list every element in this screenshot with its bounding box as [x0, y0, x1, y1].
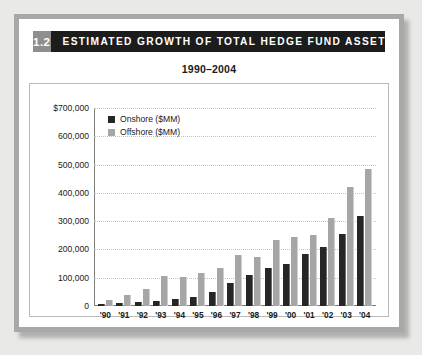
- legend-swatch-icon: [108, 129, 115, 136]
- bar-offshore[interactable]: [106, 300, 113, 307]
- y-axis-tick-label: $700,000: [53, 103, 89, 113]
- bar-group: '90: [96, 108, 115, 306]
- y-axis-tick-label: 0: [84, 301, 89, 311]
- bar-group: '04: [355, 108, 374, 306]
- x-axis-tick-label: '92: [137, 310, 148, 320]
- bar-onshore[interactable]: [153, 301, 160, 306]
- bar-offshore[interactable]: [217, 268, 224, 306]
- bar-offshore[interactable]: [180, 277, 187, 306]
- x-axis-tick-label: '96: [211, 310, 222, 320]
- exhibit-frame: 1.2 ESTIMATED GROWTH OF TOTAL HEDGE FUND…: [14, 14, 404, 332]
- x-axis-tick-label: '03: [341, 310, 352, 320]
- legend-item[interactable]: Onshore ($MM): [108, 114, 180, 124]
- bar-group: '00: [281, 108, 300, 306]
- bar-onshore[interactable]: [190, 297, 197, 306]
- y-axis-tick-label: 100,000: [58, 273, 89, 283]
- bar-onshore[interactable]: [339, 234, 346, 306]
- bar-onshore[interactable]: [172, 299, 179, 306]
- page-title: ESTIMATED GROWTH OF TOTAL HEDGE FUND ASS…: [51, 31, 394, 52]
- y-axis-tick-label: 600,000: [58, 131, 89, 141]
- legend-label: Offshore ($MM): [120, 127, 180, 137]
- bar-onshore[interactable]: [320, 247, 327, 306]
- bar-offshore[interactable]: [310, 235, 317, 306]
- bar-offshore[interactable]: [254, 257, 261, 307]
- x-axis-tick-label: '93: [155, 310, 166, 320]
- x-axis-tick-label: '99: [266, 310, 277, 320]
- bar-group: '98: [244, 108, 263, 306]
- bar-onshore[interactable]: [98, 304, 105, 306]
- x-axis-tick-label: '90: [100, 310, 111, 320]
- bar-offshore[interactable]: [143, 289, 150, 306]
- x-axis-tick-label: '95: [192, 310, 203, 320]
- bar-onshore[interactable]: [227, 283, 234, 306]
- bar-onshore[interactable]: [116, 303, 123, 306]
- bar-onshore[interactable]: [302, 254, 309, 306]
- bar-group: '99: [263, 108, 282, 306]
- bar-onshore[interactable]: [135, 302, 142, 306]
- x-axis-tick-label: '00: [285, 310, 296, 320]
- bar-onshore[interactable]: [209, 292, 216, 306]
- exhibit-title-band: 1.2 ESTIMATED GROWTH OF TOTAL HEDGE FUND…: [33, 31, 385, 52]
- y-axis-tick-label: 400,000: [58, 188, 89, 198]
- bar-group: '92: [133, 108, 152, 306]
- chart-plot-frame: 0100,000200,000300,000400,000500,000600,…: [29, 83, 389, 317]
- bar-group: '02: [318, 108, 337, 306]
- bar-group: '97: [226, 108, 245, 306]
- bar-offshore[interactable]: [198, 273, 205, 306]
- x-axis-tick-label: '94: [174, 310, 185, 320]
- legend-item[interactable]: Offshore ($MM): [108, 127, 180, 137]
- bar-onshore[interactable]: [246, 275, 253, 306]
- chart-plot-area: 0100,000200,000300,000400,000500,000600,…: [94, 108, 376, 306]
- bar-offshore[interactable]: [291, 237, 298, 306]
- bar-group: '93: [152, 108, 171, 306]
- y-axis-tick-label: 500,000: [58, 160, 89, 170]
- bar-offshore[interactable]: [273, 240, 280, 306]
- legend-swatch-icon: [108, 116, 115, 123]
- exhibit-number-badge: 1.2: [33, 31, 51, 52]
- bar-offshore[interactable]: [365, 169, 372, 306]
- bar-group: '96: [207, 108, 226, 306]
- x-axis-tick-label: '98: [248, 310, 259, 320]
- y-axis-tick-label: 200,000: [58, 244, 89, 254]
- chart-legend: Onshore ($MM)Offshore ($MM): [108, 114, 180, 137]
- bar-series-container: '90'91'92'93'94'95'96'97'98'99'00'01'02'…: [94, 108, 376, 306]
- bar-group: '95: [189, 108, 208, 306]
- y-axis-tick-label: 300,000: [58, 216, 89, 226]
- x-axis-tick-label: '01: [304, 310, 315, 320]
- bar-offshore[interactable]: [161, 276, 168, 306]
- bar-onshore[interactable]: [265, 268, 272, 306]
- x-axis-tick-label: '04: [359, 310, 370, 320]
- bar-offshore[interactable]: [124, 295, 131, 306]
- bar-group: '94: [170, 108, 189, 306]
- chart-subtitle: 1990–2004: [19, 63, 399, 75]
- bar-group: '01: [300, 108, 319, 306]
- bar-group: '91: [115, 108, 134, 306]
- bar-onshore[interactable]: [283, 264, 290, 306]
- bar-onshore[interactable]: [357, 216, 364, 307]
- bar-offshore[interactable]: [328, 218, 335, 306]
- bar-offshore[interactable]: [347, 187, 354, 306]
- x-axis-tick-label: '97: [229, 310, 240, 320]
- bar-offshore[interactable]: [235, 255, 242, 306]
- bar-group: '03: [337, 108, 356, 306]
- x-axis-tick-label: '02: [322, 310, 333, 320]
- legend-label: Onshore ($MM): [120, 114, 180, 124]
- x-axis-tick-label: '91: [118, 310, 129, 320]
